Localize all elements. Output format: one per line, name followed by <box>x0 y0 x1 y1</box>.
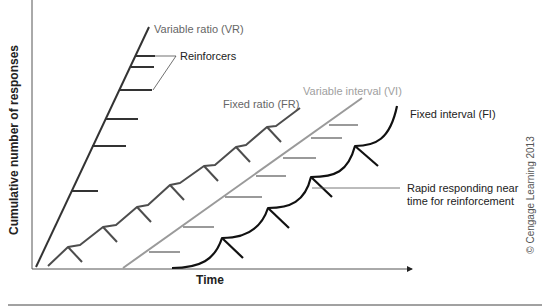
y-axis-label: Cumulative number of responses <box>7 45 21 235</box>
vi-series <box>123 98 362 268</box>
reinforcers-callout <box>153 56 176 90</box>
reinforcer-mark <box>236 147 250 162</box>
reinforcer-mark <box>267 127 281 142</box>
reinforcer-mark <box>311 177 332 197</box>
fi-series <box>172 106 397 268</box>
rapid-responding-line2: time for reinforcement <box>407 195 514 207</box>
reinforcer-mark <box>355 146 378 166</box>
fr-series <box>48 108 300 266</box>
reinforcer-mark <box>137 207 151 222</box>
reinforcer-mark <box>222 238 243 258</box>
vr-series <box>36 27 155 267</box>
reinforcer-mark <box>268 208 289 228</box>
vr-label: Variable ratio (VR) <box>154 23 244 35</box>
reinforcement-schedules-figure: Cumulative number of responses Time Vari… <box>0 0 542 307</box>
vi-label: Variable interval (VI) <box>303 85 402 97</box>
reinforcer-mark <box>68 247 82 262</box>
reinforcer-mark <box>103 227 117 242</box>
copyright-text: © Cengage Learning 2013 <box>525 136 536 254</box>
reinforcers-label: Reinforcers <box>180 50 237 62</box>
reinforcer-mark <box>170 185 184 200</box>
x-axis-label: Time <box>196 273 224 287</box>
rapid-responding-line1: Rapid responding near <box>407 182 519 194</box>
reinforcer-mark <box>204 166 218 181</box>
fr-label: Fixed ratio (FR) <box>223 98 299 110</box>
fi-label: Fixed interval (FI) <box>410 108 496 120</box>
axes <box>32 0 412 269</box>
